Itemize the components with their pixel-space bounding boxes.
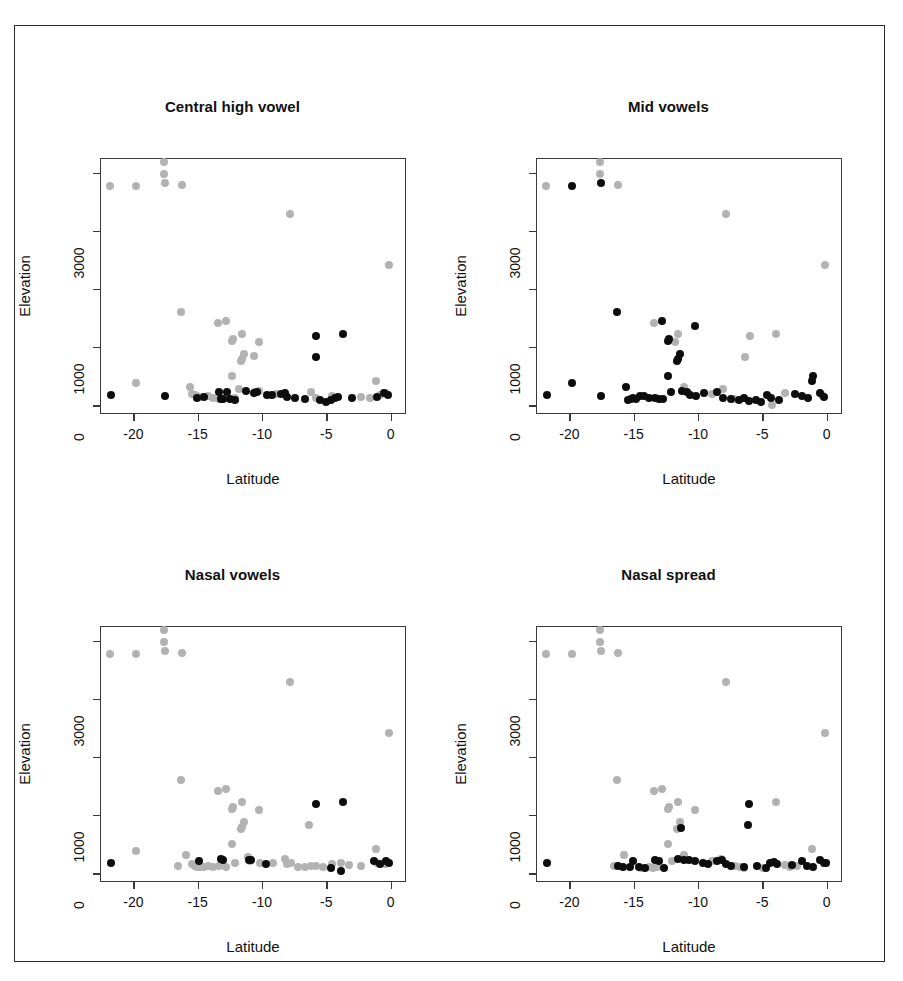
data-point xyxy=(744,821,752,829)
y-axis-tick xyxy=(93,641,100,642)
y-axis-tick xyxy=(529,641,536,642)
x-axis-tick xyxy=(391,882,392,889)
x-axis-tick xyxy=(133,882,134,889)
data-point xyxy=(809,372,817,380)
data-point xyxy=(677,824,685,832)
x-axis-tick-label: -5 xyxy=(320,894,332,910)
x-axis-tick-label: -10 xyxy=(688,894,708,910)
data-point xyxy=(809,863,817,871)
y-axis-tick xyxy=(529,405,536,406)
y-axis-tick xyxy=(93,231,100,232)
data-point xyxy=(781,389,789,397)
data-point xyxy=(312,800,320,808)
data-point xyxy=(664,840,672,848)
data-point xyxy=(132,182,140,190)
x-axis-tick xyxy=(762,414,763,421)
data-point xyxy=(385,729,393,737)
data-point xyxy=(339,330,347,338)
data-point xyxy=(568,182,576,190)
data-point xyxy=(372,377,380,385)
x-axis-tick-label: -5 xyxy=(320,426,332,442)
data-point xyxy=(660,864,668,872)
x-axis-tick-label: -20 xyxy=(123,426,143,442)
x-axis-tick-label: -20 xyxy=(559,426,579,442)
x-axis-tick-label: 0 xyxy=(387,426,395,442)
x-axis-tick xyxy=(634,882,635,889)
y-axis-tick xyxy=(529,699,536,700)
x-axis-tick xyxy=(198,882,199,889)
y-axis-title: Elevation xyxy=(451,626,469,882)
data-point xyxy=(596,170,604,178)
panel-title: Nasal vowels xyxy=(15,566,450,583)
y-axis-tick xyxy=(529,815,536,816)
data-point xyxy=(740,863,748,871)
data-point xyxy=(674,330,682,338)
data-point xyxy=(200,393,208,401)
y-axis-title-text: Elevation xyxy=(16,255,33,317)
data-point xyxy=(337,867,345,875)
data-point xyxy=(772,330,780,338)
y-axis-tick xyxy=(529,173,536,174)
data-point xyxy=(345,861,353,869)
data-point xyxy=(161,392,169,400)
data-point xyxy=(788,861,796,869)
x-axis-tick xyxy=(262,414,263,421)
data-point xyxy=(312,332,320,340)
x-axis-tick-label: 0 xyxy=(823,426,831,442)
x-axis-tick-label: 0 xyxy=(387,894,395,910)
data-point xyxy=(132,847,140,855)
plot-area xyxy=(100,158,406,414)
data-point xyxy=(753,862,761,870)
data-point xyxy=(228,372,236,380)
data-point xyxy=(182,851,190,859)
data-point xyxy=(231,859,239,867)
data-point xyxy=(664,805,672,813)
x-axis-tick-label: -20 xyxy=(559,894,579,910)
data-point xyxy=(107,391,115,399)
y-axis-tick-label: 0 xyxy=(507,873,523,937)
data-point xyxy=(255,338,263,346)
x-axis-tick-label: 0 xyxy=(823,894,831,910)
data-point xyxy=(177,308,185,316)
y-axis-tick-label: 1000 xyxy=(507,815,523,879)
data-point xyxy=(613,776,621,784)
data-point xyxy=(659,395,667,403)
x-axis-tick xyxy=(827,414,828,421)
x-axis-tick xyxy=(133,414,134,421)
x-axis-tick-label: -10 xyxy=(252,894,272,910)
data-point xyxy=(178,649,186,657)
figure-outer-border: Central high vowel Elevation Latitude -2… xyxy=(14,25,885,962)
data-point xyxy=(658,785,666,793)
data-point xyxy=(674,798,682,806)
y-axis-tick xyxy=(93,815,100,816)
data-point xyxy=(132,650,140,658)
data-point xyxy=(160,170,168,178)
y-axis-tick xyxy=(93,873,100,874)
data-point xyxy=(238,798,246,806)
x-axis-tick xyxy=(198,414,199,421)
data-point xyxy=(161,179,169,187)
data-point xyxy=(691,322,699,330)
x-axis-tick xyxy=(326,882,327,889)
y-axis-tick xyxy=(529,289,536,290)
data-point xyxy=(727,862,735,870)
data-point xyxy=(722,210,730,218)
data-point xyxy=(673,357,681,365)
y-axis-tick-label: 3000 xyxy=(507,231,523,295)
data-point xyxy=(722,678,730,686)
data-point xyxy=(741,353,749,361)
data-point xyxy=(106,650,114,658)
data-point xyxy=(704,860,712,868)
data-point xyxy=(228,337,236,345)
data-point xyxy=(268,391,276,399)
data-point xyxy=(664,337,672,345)
x-axis-tick-label: -20 xyxy=(123,894,143,910)
data-point xyxy=(691,806,699,814)
data-point xyxy=(543,391,551,399)
y-axis-tick xyxy=(529,873,536,874)
plot-area xyxy=(100,626,406,882)
y-axis-title: Elevation xyxy=(15,626,33,882)
data-point xyxy=(348,394,356,402)
y-axis-tick-label: 0 xyxy=(71,405,87,469)
data-point xyxy=(160,158,168,166)
